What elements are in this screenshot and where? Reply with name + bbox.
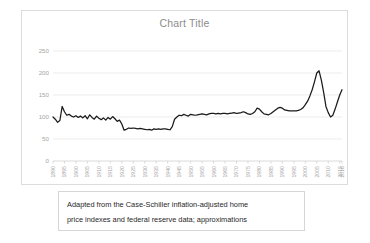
data-line-series-0 xyxy=(53,71,342,130)
xtick-label-1905: 1905 xyxy=(84,166,90,178)
xtick-label-1980: 1980 xyxy=(256,166,262,178)
xtick-label-1915: 1915 xyxy=(107,166,113,178)
xtick-label-1970: 1970 xyxy=(233,166,239,178)
xtick-label-1945: 1945 xyxy=(176,166,182,178)
xtick-label-1950: 1950 xyxy=(188,166,194,178)
ytick-label-0: 0 xyxy=(46,157,50,164)
xtick-label-1955: 1955 xyxy=(199,166,205,178)
xtick-label-1965: 1965 xyxy=(222,166,228,178)
xtick-label-1910: 1910 xyxy=(96,166,102,178)
xtick-label-1985: 1985 xyxy=(268,166,274,178)
xtick-label-2016: 2016 xyxy=(339,166,345,178)
xtick-label-1925: 1925 xyxy=(130,166,136,178)
ytick-label-250: 250 xyxy=(39,47,50,54)
xtick-label-1960: 1960 xyxy=(211,166,217,178)
xtick-label-1930: 1930 xyxy=(142,166,148,178)
xtick-label-1895: 1895 xyxy=(61,166,67,178)
ytick-label-50: 50 xyxy=(42,135,49,142)
ytick-label-100: 100 xyxy=(39,113,50,120)
ytick-label-150: 150 xyxy=(39,91,50,98)
xtick-label-1900: 1900 xyxy=(73,166,79,178)
xtick-label-1920: 1920 xyxy=(119,166,125,178)
line-chart-plot: 0501001502002501890189519001905191019151… xyxy=(22,11,349,186)
ytick-label-200: 200 xyxy=(39,69,50,76)
caption-line-1: Adapted from the Case-Schiller inflation… xyxy=(67,197,296,212)
xtick-label-1940: 1940 xyxy=(165,166,171,178)
caption-line-2: price indexes and federal reserve data; … xyxy=(67,212,296,227)
xtick-label-1935: 1935 xyxy=(153,166,159,178)
xtick-label-2005: 2005 xyxy=(314,166,320,178)
xtick-label-1975: 1975 xyxy=(245,166,251,178)
xtick-label-2000: 2000 xyxy=(302,166,308,178)
xtick-label-1890: 1890 xyxy=(50,166,56,178)
caption-box: Adapted from the Case-Schiller inflation… xyxy=(58,191,305,231)
chart-card: Chart Title 0501001502002501890189519001… xyxy=(21,10,348,185)
xtick-label-1990: 1990 xyxy=(279,166,285,178)
xtick-label-2010: 2010 xyxy=(325,166,331,178)
xtick-label-1995: 1995 xyxy=(291,166,297,178)
